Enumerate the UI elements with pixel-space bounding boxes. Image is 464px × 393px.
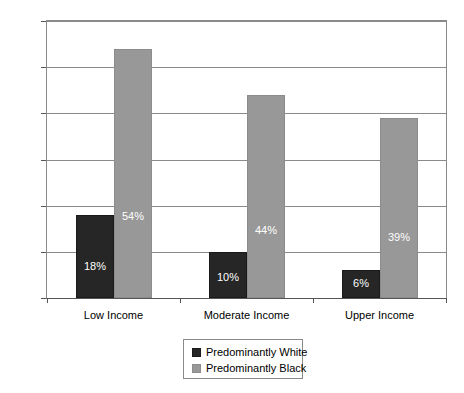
- chart-legend: Predominantly WhitePredominantly Black: [183, 339, 303, 379]
- bar-value-label: 18%: [77, 261, 113, 272]
- legend-item-label: Predominantly Black: [206, 363, 306, 374]
- bar-value-label: 39%: [381, 232, 417, 243]
- bar: 44%: [247, 95, 285, 298]
- bar: 18%: [76, 215, 114, 298]
- x-axis-category-label: Upper Income: [313, 309, 446, 321]
- bar-chart: 0%10%20%30%40%50%60% 18%54%10%44%6%39% L…: [0, 0, 464, 393]
- bar-value-label: 6%: [343, 278, 379, 289]
- bar: 39%: [380, 118, 418, 298]
- plot-area: 18%54%10%44%6%39%: [46, 20, 447, 299]
- x-axis-end-tick: [446, 298, 447, 303]
- bar-value-label: 54%: [115, 211, 151, 222]
- bar: 54%: [114, 49, 152, 298]
- legend-swatch-icon: [192, 348, 201, 357]
- gridline: [47, 21, 446, 22]
- x-axis-category-label: Moderate Income: [180, 309, 313, 321]
- x-axis-end-tick: [47, 298, 48, 303]
- bar: 10%: [209, 252, 247, 298]
- gridline: [47, 67, 446, 68]
- legend-item-label: Predominantly White: [206, 347, 308, 358]
- legend-item[interactable]: Predominantly White: [192, 345, 308, 359]
- legend-item[interactable]: Predominantly Black: [192, 361, 306, 375]
- x-axis-category-label: Low Income: [47, 309, 180, 321]
- bar: 6%: [342, 270, 380, 298]
- bar-value-label: 44%: [248, 225, 284, 236]
- x-axis-separator: [180, 298, 181, 303]
- bar-value-label: 10%: [210, 272, 246, 283]
- x-axis-separator: [313, 298, 314, 303]
- legend-swatch-icon: [192, 364, 201, 373]
